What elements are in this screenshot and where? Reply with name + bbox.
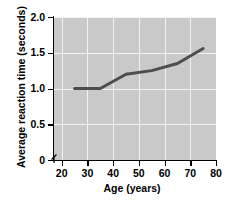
y-axis-tick: 2.0: [48, 17, 53, 18]
y-axis-tick-label: 1.0: [30, 82, 45, 94]
y-axis-line: [53, 16, 54, 161]
y-axis-tick: 0: [48, 160, 53, 161]
x-axis-tick-label: 80: [205, 167, 227, 179]
y-axis-tick: 0.5: [48, 124, 53, 125]
x-axis-tick: [113, 161, 114, 166]
x-axis-tick-label: 60: [154, 167, 176, 179]
y-axis-title: Average reaction time (seconds): [14, 2, 28, 172]
data-series-layer: [54, 17, 216, 160]
x-axis-tick-label: 30: [76, 167, 98, 179]
y-axis-tick-label: 0: [39, 154, 45, 166]
x-axis-tick: [216, 161, 217, 166]
y-axis-tick-label: 1.5: [30, 46, 45, 58]
x-axis-tick-label: 70: [179, 167, 201, 179]
x-axis-tick-label: 50: [128, 167, 150, 179]
series-line-average-reaction-time: [75, 48, 204, 88]
y-axis-tick-label: 2.0: [30, 11, 45, 23]
x-axis-tick-label: 20: [51, 167, 73, 179]
y-axis-tick: 1.5: [48, 53, 53, 54]
x-axis-tick: [165, 161, 166, 166]
x-axis-tick: [139, 161, 140, 166]
x-axis-tick: [87, 161, 88, 166]
x-axis-tick-label: 40: [102, 167, 124, 179]
x-axis-title: Age (years): [46, 182, 218, 194]
y-axis-tick: 1.0: [48, 89, 53, 90]
reaction-time-line-chart: Average reaction time (seconds) 00.51.01…: [0, 0, 230, 204]
y-axis-tick-label: 0.5: [30, 118, 45, 130]
x-axis-tick: [62, 161, 63, 166]
x-axis-line: [53, 160, 217, 161]
x-axis-tick: [190, 161, 191, 166]
